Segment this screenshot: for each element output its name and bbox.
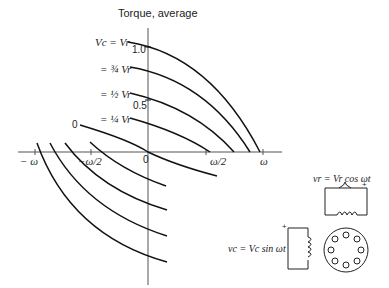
curve-label-0: 0 — [72, 119, 78, 130]
x-tick-neg-half: −ω/2 — [78, 155, 102, 167]
x-tick-pos-half: ω/2 — [210, 155, 226, 167]
torque-speed-plot — [0, 0, 389, 288]
curve-label-1-4: = ¼ Vr — [100, 113, 131, 125]
control-circuit — [288, 228, 311, 269]
x-tick-pos-omega: ω — [260, 155, 268, 167]
tick-0-5: 0.5 — [133, 100, 147, 111]
curve-label-1-2: = ½ Vr — [100, 88, 131, 100]
x-tick-zero: 0 — [143, 154, 149, 165]
tick-1-0: 1.0 — [132, 44, 146, 55]
x-tick-neg-omega: − ω — [20, 155, 38, 167]
curve-label-3-4: = ¾ Vr — [100, 63, 131, 75]
curve-label-full: Vc = Vr — [95, 36, 130, 48]
rotor-plus: + — [362, 180, 367, 189]
curve-1-4 — [130, 118, 210, 152]
control-voltage-eq: vc = Vc sin ωt — [228, 243, 286, 254]
rotor-disk — [324, 228, 368, 272]
rotor-circuit — [325, 182, 367, 215]
y-axis-title: Torque, average — [118, 7, 198, 19]
control-plus: + — [282, 222, 287, 231]
